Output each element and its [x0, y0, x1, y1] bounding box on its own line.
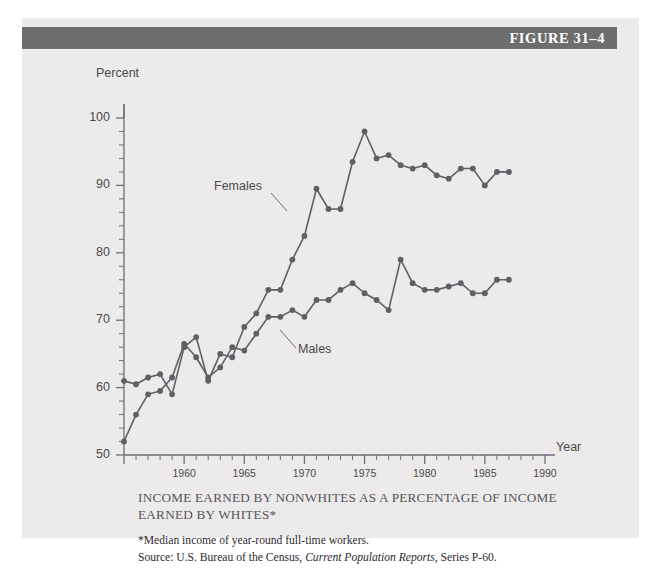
data-point-males — [241, 348, 247, 354]
data-point-males — [133, 412, 139, 418]
caption-source-prefix: Source: U.S. Bureau of the Census, — [138, 551, 305, 564]
data-point-females — [145, 375, 151, 381]
data-point-females — [265, 287, 271, 293]
series-label-females: Females — [214, 179, 262, 193]
data-point-males — [302, 314, 308, 320]
data-point-females — [398, 162, 404, 168]
data-point-males — [253, 331, 259, 337]
data-point-males — [181, 341, 187, 347]
data-point-males — [350, 280, 356, 286]
leader-line-males — [280, 330, 296, 348]
y-tick-label: 70 — [76, 312, 110, 326]
data-point-females — [302, 233, 308, 239]
data-point-males — [362, 290, 368, 296]
data-point-males — [410, 280, 416, 286]
data-point-males — [290, 307, 296, 313]
data-point-females — [422, 162, 428, 168]
data-point-males — [374, 297, 380, 303]
leader-line-females — [271, 193, 287, 211]
data-point-males — [193, 354, 199, 360]
data-point-females — [253, 311, 259, 317]
caption-source-suffix: , Series P-60. — [435, 551, 497, 564]
data-point-males — [338, 287, 344, 293]
data-point-females — [506, 169, 512, 175]
data-point-males — [145, 391, 151, 397]
y-axis-title: Percent — [96, 66, 139, 80]
data-point-females — [350, 159, 356, 165]
data-point-males — [205, 375, 211, 381]
data-point-females — [157, 371, 163, 377]
x-axis-title: Year — [556, 440, 581, 454]
data-point-females — [374, 156, 380, 162]
data-point-males — [326, 297, 332, 303]
data-point-males — [494, 277, 500, 283]
caption-title: INCOME EARNED BY NONWHITES AS A PERCENTA… — [138, 490, 608, 524]
data-point-males — [277, 314, 283, 320]
data-point-males — [229, 344, 235, 350]
data-point-males — [434, 287, 440, 293]
data-point-females — [434, 172, 440, 178]
data-point-females — [482, 183, 488, 189]
data-point-females — [314, 186, 320, 192]
y-tick-label: 80 — [76, 245, 110, 259]
figure-page: FIGURE 31–4 Percent Year Females Males 5… — [0, 0, 661, 585]
series-label-males: Males — [298, 342, 331, 356]
data-point-females — [362, 129, 368, 135]
caption-source: Source: U.S. Bureau of the Census, Curre… — [138, 550, 608, 567]
x-tick-label: 1980 — [405, 467, 445, 479]
data-point-females — [133, 381, 139, 387]
caption-source-italic: Current Population Reports — [305, 551, 435, 564]
x-tick-label: 1985 — [465, 467, 505, 479]
data-point-females — [217, 351, 223, 357]
data-point-females — [458, 166, 464, 172]
data-point-females — [494, 169, 500, 175]
data-point-males — [482, 290, 488, 296]
data-point-males — [386, 307, 392, 313]
data-point-females — [229, 354, 235, 360]
data-point-males — [314, 297, 320, 303]
data-point-males — [446, 284, 452, 290]
figure-caption: INCOME EARNED BY NONWHITES AS A PERCENTA… — [138, 490, 608, 566]
data-point-males — [169, 375, 175, 381]
y-tick-label: 90 — [76, 177, 110, 191]
data-point-females — [121, 378, 127, 384]
data-point-males — [217, 364, 223, 370]
x-tick-label: 1970 — [284, 467, 324, 479]
data-point-females — [241, 324, 247, 330]
data-point-females — [386, 152, 392, 158]
data-point-females — [470, 166, 476, 172]
y-tick-label: 60 — [76, 380, 110, 394]
x-tick-label: 1975 — [345, 467, 385, 479]
caption-footnote: *Median income of year-round full-time w… — [138, 533, 608, 550]
data-point-males — [398, 257, 404, 263]
data-point-males — [265, 314, 271, 320]
data-point-females — [290, 257, 296, 263]
data-point-females — [169, 391, 175, 397]
data-point-females — [326, 206, 332, 212]
data-point-males — [506, 277, 512, 283]
data-point-females — [410, 166, 416, 172]
data-point-females — [446, 176, 452, 182]
y-tick-label: 50 — [76, 447, 110, 461]
data-point-males — [422, 287, 428, 293]
data-point-females — [277, 287, 283, 293]
data-point-males — [470, 290, 476, 296]
x-tick-label: 1960 — [164, 467, 204, 479]
data-point-males — [458, 280, 464, 286]
y-tick-label: 100 — [76, 110, 110, 124]
data-point-males — [157, 388, 163, 394]
x-tick-label: 1990 — [525, 467, 565, 479]
x-tick-label: 1965 — [224, 467, 264, 479]
data-point-males — [121, 439, 127, 445]
data-point-females — [338, 206, 344, 212]
data-point-females — [193, 334, 199, 340]
